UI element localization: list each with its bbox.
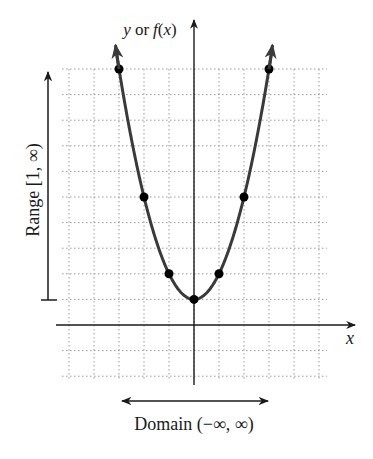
- domain-label: Domain (−∞, ∞): [134, 414, 253, 435]
- data-point: [215, 269, 224, 278]
- parabola-chart: yorf(x) x Range [1, ∞) Domain (−∞, ∞): [0, 0, 373, 459]
- data-point: [140, 193, 149, 202]
- curve-arrow: [269, 45, 273, 69]
- y-axis-label: yorf(x): [121, 20, 176, 39]
- data-point: [190, 295, 199, 304]
- range-label: Range [1, ∞): [23, 143, 44, 236]
- data-point: [165, 269, 174, 278]
- curve-arrow: [116, 45, 120, 69]
- x-axis-label: x: [345, 328, 354, 348]
- data-point: [240, 193, 249, 202]
